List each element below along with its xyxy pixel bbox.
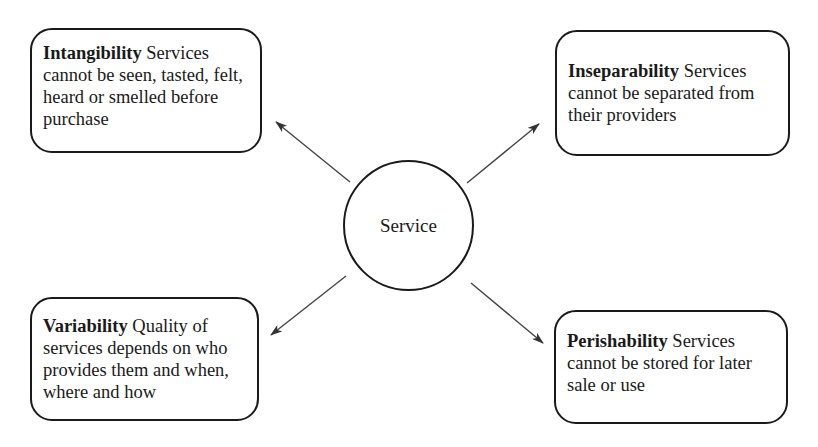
arrow-to-inseparability xyxy=(467,124,539,183)
center-node-label: Service xyxy=(380,215,437,237)
node-term: Inseparability xyxy=(568,61,679,81)
node-inseparability: Inseparability Services cannot be separa… xyxy=(555,30,790,156)
node-perishability: Perishability Services cannot be stored … xyxy=(554,310,788,424)
arrow-to-variability xyxy=(271,276,346,335)
node-term: Perishability xyxy=(567,331,668,351)
node-intangibility: Intangibility Services cannot be seen, t… xyxy=(30,28,262,153)
diagram-canvas: Service Intangibility Services cannot be… xyxy=(0,0,818,447)
arrow-to-perishability xyxy=(471,283,543,343)
node-term: Intangibility xyxy=(43,43,142,63)
arrow-to-intangibility xyxy=(276,122,350,182)
node-variability: Variability Quality of services depends … xyxy=(30,297,259,421)
center-node-service: Service xyxy=(343,160,474,291)
node-term: Variability xyxy=(43,316,128,336)
